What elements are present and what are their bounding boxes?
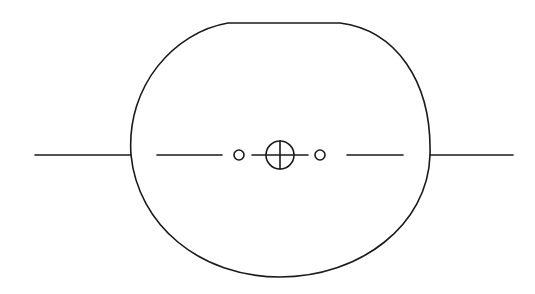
diagram-svg xyxy=(0,0,535,294)
small-circle-left-icon xyxy=(234,150,244,160)
diagram-canvas xyxy=(0,0,535,294)
small-circle-right-icon xyxy=(315,150,325,160)
